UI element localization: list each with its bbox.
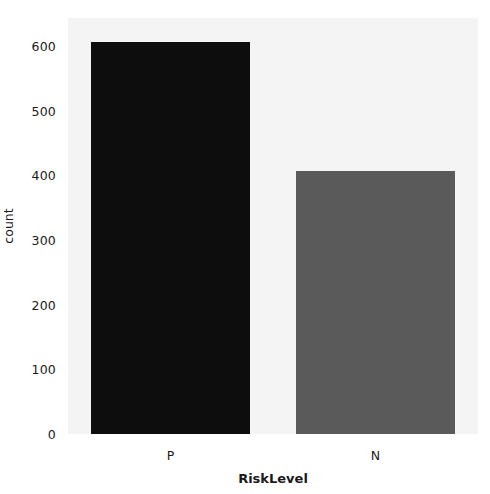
y-tick-label: 300 — [32, 232, 56, 247]
x-axis: RiskLevel PN — [0, 434, 490, 494]
bar-p — [91, 42, 251, 434]
y-tick-label: 500 — [32, 103, 56, 118]
y-axis-title: count — [1, 208, 16, 243]
bars-layer — [68, 18, 478, 434]
x-tick-label-n: N — [371, 448, 380, 463]
x-axis-title: RiskLevel — [238, 471, 308, 486]
y-tick-label: 100 — [32, 362, 56, 377]
x-tick-label-p: P — [167, 448, 175, 463]
bar-n — [296, 171, 456, 434]
plot-area — [68, 18, 478, 434]
y-tick-label: 200 — [32, 297, 56, 312]
bar-chart-figure: count 0100200300400500600 RiskLevel PN — [0, 0, 490, 494]
y-tick-label: 600 — [32, 38, 56, 53]
y-tick-label: 400 — [32, 168, 56, 183]
y-axis: count 0100200300400500600 — [0, 0, 68, 494]
